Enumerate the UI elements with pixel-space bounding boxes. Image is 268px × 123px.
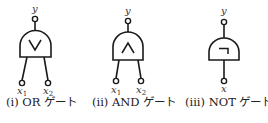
not-output-terminal	[221, 19, 226, 24]
or-symbol-icon	[29, 40, 41, 50]
or-output-label: y	[31, 3, 38, 14]
not-symbol-icon	[219, 49, 228, 55]
not-output-label: y	[220, 5, 227, 16]
logic-gates-diagram: y x1 x2 (i) OR ゲート y x1 x2 (ii) AND ゲート …	[0, 0, 268, 123]
and-caption: (ii) AND ゲート	[92, 95, 176, 109]
or-input1-wire	[22, 57, 27, 81]
and-symbol-icon	[122, 43, 134, 53]
or-input2-wire	[44, 57, 48, 81]
or-output-terminal	[32, 16, 37, 21]
and-gate-body	[113, 32, 143, 60]
not-caption: (iii) NOT ゲート	[185, 95, 268, 109]
not-gate: y x (iii) NOT ゲート	[185, 5, 268, 109]
not-input-label: x	[221, 83, 227, 94]
and-input1-wire	[116, 60, 119, 79]
and-input2-wire	[138, 60, 141, 79]
and-gate: y x1 x2 (ii) AND ゲート	[92, 5, 176, 109]
and-input1-terminal	[113, 78, 118, 83]
and-output-terminal	[125, 18, 130, 23]
or-gate-body	[20, 31, 51, 58]
or-gate: y x1 x2 (i) OR ゲート	[6, 3, 77, 109]
and-output-label: y	[124, 5, 131, 16]
and-input2-terminal	[138, 78, 143, 83]
or-caption: (i) OR ゲート	[6, 95, 77, 109]
